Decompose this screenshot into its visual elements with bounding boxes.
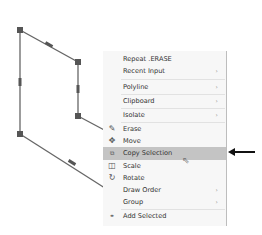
scale-icon: ◫ [107, 161, 117, 171]
menu-item-label: Rotate [123, 172, 145, 184]
grip-vertex[interactable] [75, 113, 81, 119]
menu-item-move[interactable]: ✥Move [103, 135, 226, 147]
menu-item-label: Copy Selection [123, 147, 172, 159]
menu-item-erase[interactable]: ✎Erase [103, 123, 226, 135]
menu-item-label: Group [123, 196, 143, 208]
chevron-right-icon: › [216, 81, 218, 93]
menu-item-group[interactable]: Group› [103, 196, 226, 208]
menu-item-polyline[interactable]: Polyline› [103, 81, 226, 93]
mouse-cursor-icon: ⇖ [182, 155, 190, 165]
menu-item-label: Scale [123, 160, 141, 172]
add-selected-icon: ⚭ [107, 211, 117, 221]
menu-item-recent-input[interactable]: Recent Input› [103, 65, 226, 77]
menu-item-clipboard[interactable]: Clipboard› [103, 95, 226, 107]
context-menu: Repeat .ERASE Recent Input› Polyline› Cl… [103, 51, 227, 226]
menu-item-label: Isolate [123, 109, 145, 121]
callout-arrow [233, 151, 255, 153]
menu-item-label: Add Selected [123, 210, 166, 222]
menu-item-draw-order[interactable]: Draw Order› [103, 184, 226, 196]
menu-item-copy-selection[interactable]: ⧉Copy Selection [103, 147, 226, 160]
chevron-right-icon: › [216, 109, 218, 121]
menu-item-label: Recent Input [123, 65, 165, 77]
chevron-right-icon: › [216, 65, 218, 77]
copy-icon: ⧉ [107, 148, 117, 158]
menu-item-label: Polyline [123, 81, 148, 93]
menu-item-add-selected[interactable]: ⚭Add Selected [103, 210, 226, 222]
grip-vertex[interactable] [75, 59, 81, 65]
menu-item-isolate[interactable]: Isolate› [103, 109, 226, 121]
menu-item-rotate[interactable]: ↻Rotate [103, 172, 226, 184]
menu-item-label: Draw Order [123, 184, 161, 196]
chevron-right-icon: › [216, 184, 218, 196]
rotate-icon: ↻ [107, 173, 117, 183]
eraser-icon: ✎ [107, 124, 117, 134]
chevron-right-icon: › [216, 95, 218, 107]
grip-midpoint[interactable] [19, 78, 22, 86]
menu-separator [121, 79, 225, 80]
move-icon: ✥ [107, 136, 117, 146]
menu-item-label: Move [123, 135, 141, 147]
grip-vertex[interactable] [17, 27, 23, 33]
menu-item-label: Repeat .ERASE [123, 53, 172, 65]
menu-item-repeat-erase[interactable]: Repeat .ERASE [103, 53, 226, 65]
menu-item-label: Clipboard [123, 95, 155, 107]
grip-midpoint[interactable] [77, 85, 80, 93]
menu-item-scale[interactable]: ◫Scale [103, 160, 226, 172]
grip-vertex[interactable] [17, 131, 23, 137]
grip-midpoint[interactable] [45, 41, 53, 48]
menu-item-label: Erase [123, 123, 141, 135]
chevron-right-icon: › [216, 196, 218, 208]
